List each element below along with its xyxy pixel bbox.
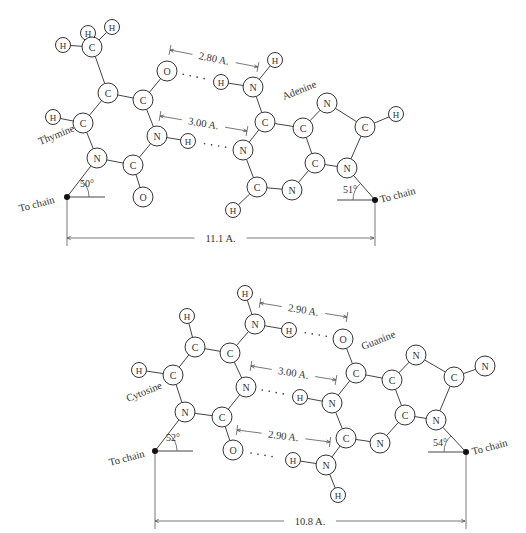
svg-text:C: C xyxy=(262,117,269,128)
svg-text:N: N xyxy=(323,98,330,109)
hbond-distance-dimension: 3.00 A. xyxy=(250,361,337,385)
svg-text:H: H xyxy=(286,326,293,336)
covalent-bond xyxy=(95,56,104,83)
chain-distance-label: 11.1 A. xyxy=(205,233,235,244)
svg-text:C: C xyxy=(227,348,234,359)
atom-c: C xyxy=(220,343,240,363)
to-chain-label: To chain xyxy=(108,448,147,468)
covalent-bond xyxy=(330,474,336,488)
atom-o: O xyxy=(333,329,353,349)
svg-text:C: C xyxy=(89,42,96,53)
svg-text:N: N xyxy=(153,131,160,142)
covalent-bond xyxy=(70,46,82,47)
svg-text:H: H xyxy=(242,289,249,299)
covalent-bond xyxy=(440,386,450,411)
covalent-bond xyxy=(189,323,193,337)
atom-o: O xyxy=(157,61,177,81)
covalent-bond xyxy=(335,108,356,121)
atom-c: C xyxy=(123,155,143,175)
angle-label: 51° xyxy=(343,184,357,195)
hydrogen-bond-dots xyxy=(183,74,205,78)
atom-c: C xyxy=(185,337,205,357)
svg-text:O: O xyxy=(229,445,236,456)
covalent-bond xyxy=(347,348,353,363)
chain-attachment: 50°To chain xyxy=(18,166,105,246)
chain-attachment: 51°To chain xyxy=(337,176,417,246)
atom-n: N xyxy=(147,126,167,146)
covalent-bond xyxy=(415,417,426,419)
svg-text:C: C xyxy=(254,182,261,193)
svg-text:H: H xyxy=(185,137,192,147)
covalent-bond xyxy=(259,66,270,79)
hbond-distance-label: 3.00 A. xyxy=(277,365,309,381)
atom-n: N xyxy=(245,314,265,334)
atom-n: N xyxy=(282,180,302,200)
covalent-bond xyxy=(463,369,475,373)
svg-text:N: N xyxy=(251,319,258,330)
svg-text:H: H xyxy=(218,78,225,88)
atom-c: C xyxy=(355,117,375,137)
chain-point-icon xyxy=(152,448,158,454)
to-chain-label: To chain xyxy=(471,437,510,457)
hbond-distance-dimension: 2.90 A. xyxy=(259,298,348,322)
covalent-bond xyxy=(228,395,240,409)
covalent-bond xyxy=(237,332,249,346)
svg-text:C: C xyxy=(219,412,226,423)
atom-n: N xyxy=(426,410,446,430)
atom-h: H xyxy=(105,20,120,35)
covalent-bond xyxy=(146,371,163,373)
svg-text:C: C xyxy=(451,372,458,383)
svg-text:H: H xyxy=(272,56,279,66)
svg-text:H: H xyxy=(297,393,304,403)
atom-h: H xyxy=(389,107,404,122)
covalent-bond xyxy=(89,101,101,116)
atom-h: H xyxy=(226,203,241,218)
covalent-bond xyxy=(247,300,252,314)
covalent-bond xyxy=(149,79,160,93)
svg-text:N: N xyxy=(93,153,100,164)
hbond-distance-label: 3.00 A. xyxy=(187,115,219,131)
svg-text:C: C xyxy=(300,123,307,134)
svg-text:C: C xyxy=(105,88,112,99)
atom-n: N xyxy=(243,77,263,97)
svg-text:N: N xyxy=(412,350,419,361)
covalent-bond xyxy=(338,381,350,395)
svg-text:C: C xyxy=(140,95,147,106)
covalent-bond xyxy=(147,109,154,126)
atom-n: N xyxy=(175,402,195,422)
guanine-label: Guanine xyxy=(360,328,397,352)
atom-h: H xyxy=(46,110,61,125)
angle-label: 50° xyxy=(80,178,94,189)
atom-n: N xyxy=(406,345,426,365)
svg-text:C: C xyxy=(130,160,137,171)
covalent-bond xyxy=(351,136,361,159)
atom-c: C xyxy=(133,90,153,110)
svg-text:O: O xyxy=(139,192,146,203)
chain-point-icon xyxy=(463,449,469,455)
covalent-bond xyxy=(179,355,189,367)
top-labels: Thymine Adenine xyxy=(37,78,318,147)
atom-n: N xyxy=(317,93,337,113)
covalent-bond xyxy=(366,375,382,378)
adenine-label: Adenine xyxy=(281,78,318,102)
svg-text:C: C xyxy=(343,433,350,444)
svg-text:C: C xyxy=(80,118,87,129)
atom-c: C xyxy=(163,365,183,385)
chain-distance-label: 10.8 A. xyxy=(295,516,326,527)
atom-n: N xyxy=(316,455,336,475)
atom-c: C xyxy=(395,405,415,425)
svg-text:H: H xyxy=(290,456,297,466)
atom-h: H xyxy=(132,363,147,378)
atom-n: N xyxy=(87,148,107,168)
covalent-bond xyxy=(336,412,343,428)
thymine-label: Thymine xyxy=(37,122,77,147)
covalent-bond xyxy=(176,385,182,403)
atom-n: N xyxy=(337,158,357,178)
svg-text:C: C xyxy=(402,410,409,421)
svg-text:N: N xyxy=(181,407,188,418)
covalent-bond xyxy=(256,96,262,112)
svg-text:H: H xyxy=(184,312,191,322)
covalent-bond xyxy=(99,32,107,40)
atom-o: O xyxy=(133,187,153,207)
covalent-bond xyxy=(325,165,337,167)
